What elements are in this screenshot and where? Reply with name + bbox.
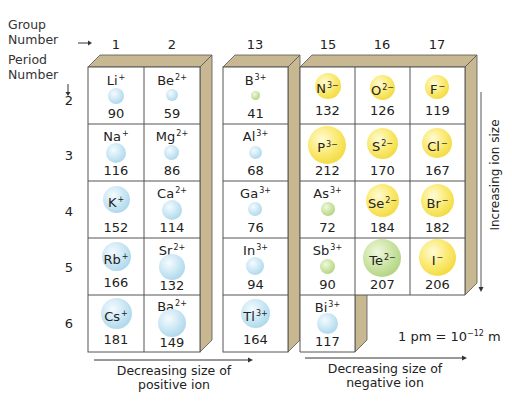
positive-ion-arrow-icon <box>94 358 253 363</box>
ion-cell-te: Te2− 207 <box>355 238 410 295</box>
ion-symbol: Na+ <box>88 127 144 144</box>
ion-cell-p: P3− 212 <box>300 124 355 181</box>
ion-symbol: S2− <box>355 137 410 154</box>
ion-sphere <box>162 200 182 220</box>
ion-cell-n: N3− 132 <box>300 67 355 124</box>
ion-radius: 72 <box>300 221 355 235</box>
ion-cell-ba: Ba2+ 149 <box>144 295 200 352</box>
ion-symbol: Rb+ <box>88 250 144 267</box>
ion-sphere <box>166 89 178 101</box>
ion-symbol: As3+ <box>300 184 355 201</box>
ion-cell-b: B3+ 41 <box>223 67 288 124</box>
ion-cell-o: O2− 126 <box>355 67 410 124</box>
ion-cell-se: Se2− 184 <box>355 181 410 238</box>
group-number-16: 16 <box>370 37 394 52</box>
ion-symbol: F− <box>410 80 465 97</box>
ion-symbol: B3+ <box>223 71 288 88</box>
ion-cell-bi: Bi3+ 117 <box>300 295 355 352</box>
ion-sphere <box>164 145 179 160</box>
ion-cell-mg: Mg2+ 86 <box>144 124 200 181</box>
group-number-1: 1 <box>104 37 128 52</box>
ion-sphere <box>248 202 262 216</box>
ion-symbol: Se2− <box>355 194 410 211</box>
increasing-ion-size-label: Increasing ion size <box>488 115 502 235</box>
ion-cell-sr: Sr2+ 132 <box>144 238 200 295</box>
group-number-arrow-icon <box>78 41 92 46</box>
ion-sphere <box>317 313 338 334</box>
ion-cell-s: S2− 170 <box>355 124 410 181</box>
ion-radius: 212 <box>300 164 355 178</box>
group-number-17: 17 <box>425 37 449 52</box>
ion-cell-na: Na+ 116 <box>88 124 144 181</box>
ion-radius: 114 <box>144 221 200 235</box>
ion-symbol: N3− <box>300 79 355 96</box>
ion-symbol: Br− <box>410 194 465 211</box>
group-label-line1: Group <box>8 17 58 32</box>
ion-symbol: Ga3+ <box>223 184 288 201</box>
ion-symbol: Te2− <box>355 251 410 268</box>
ion-symbol: P3− <box>300 138 355 155</box>
ion-cell-cl: Cl− 167 <box>410 124 465 181</box>
ion-sphere <box>158 309 186 337</box>
ion-radius: 149 <box>144 336 200 350</box>
ion-sphere <box>159 254 185 280</box>
ion-cell-al: Al3+ 68 <box>223 124 288 181</box>
ion-sphere <box>321 202 335 216</box>
ion-sphere <box>320 259 335 274</box>
group-number-13: 13 <box>243 37 267 52</box>
ion-radius: 181 <box>88 333 144 347</box>
ion-radius: 119 <box>410 104 465 118</box>
ion-cell-ca: Ca2+ 114 <box>144 181 200 238</box>
ion-cell-br: Br− 182 <box>410 181 465 238</box>
period-number-6: 6 <box>57 316 81 331</box>
negative-ion-arrow-icon <box>305 356 467 361</box>
ion-symbol: In3+ <box>223 241 288 258</box>
ion-radius: 184 <box>355 221 410 235</box>
ion-cell-f: F− 119 <box>410 67 465 124</box>
period-number-label: Period Number <box>8 52 58 82</box>
ion-cell-in: In3+ 94 <box>223 238 288 295</box>
ion-radius: 166 <box>88 276 144 290</box>
ion-symbol: Cs+ <box>88 307 144 324</box>
ion-radius: 182 <box>410 221 465 235</box>
ion-radius: 117 <box>300 335 355 349</box>
ion-radius: 41 <box>223 107 288 121</box>
ion-cell-sb: Sb3+ 90 <box>300 238 355 295</box>
ion-radius: 90 <box>88 107 144 121</box>
ion-sphere <box>246 257 264 275</box>
ion-radius: 152 <box>88 221 144 235</box>
ion-cell-as: As3+ 72 <box>300 181 355 238</box>
ion-radius: 206 <box>410 278 465 292</box>
ion-cell-k: K+ 152 <box>88 181 144 238</box>
ion-radius: 132 <box>300 104 355 118</box>
group-label-line2: Number <box>8 32 58 47</box>
period-number-5: 5 <box>57 260 81 275</box>
group-number-2: 2 <box>160 37 184 52</box>
ion-radius: 76 <box>223 221 288 235</box>
ion-symbol: Al3+ <box>223 127 288 144</box>
ion-radius: 126 <box>355 104 410 118</box>
positive-ion-caption: Decreasing size of positive ion <box>94 364 254 392</box>
ion-radius: 132 <box>144 279 200 293</box>
ion-symbol: Mg2+ <box>144 127 200 144</box>
ion-symbol: Ca2+ <box>144 184 200 201</box>
ion-sphere <box>249 146 262 159</box>
period-number-2: 2 <box>57 93 81 108</box>
ion-sphere <box>106 143 126 163</box>
ion-symbol: Sb3+ <box>300 241 355 258</box>
ion-radius: 167 <box>410 164 465 178</box>
ion-sphere <box>251 91 260 100</box>
period-label-line2: Number <box>8 67 58 82</box>
ion-radius: 68 <box>223 164 288 178</box>
group-number-15: 15 <box>316 37 340 52</box>
period-label-line1: Period <box>8 52 58 67</box>
ion-radius: 116 <box>88 164 144 178</box>
ion-cell-i: I− 206 <box>410 238 465 295</box>
period-number-4: 4 <box>57 204 81 219</box>
ion-cell-li: Li+ 90 <box>88 67 144 124</box>
ion-symbol: I− <box>410 251 465 268</box>
ion-radius: 86 <box>144 164 200 178</box>
ion-cell-cs: Cs+ 181 <box>88 295 144 352</box>
ion-radius: 164 <box>223 333 288 347</box>
ion-symbol: Cl− <box>410 137 465 154</box>
